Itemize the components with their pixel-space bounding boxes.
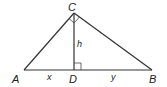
side-ac xyxy=(24,13,74,70)
right-angle-mark-d xyxy=(74,63,81,70)
segment-label-h: h xyxy=(77,39,82,49)
segment-label-x: x xyxy=(46,72,52,82)
triangle-diagram: C A D B x y h xyxy=(0,0,167,87)
segment-label-y: y xyxy=(110,72,116,82)
vertex-label-c: C xyxy=(68,1,76,13)
vertex-label-b: B xyxy=(149,73,156,85)
side-cb xyxy=(74,13,152,70)
vertex-label-a: A xyxy=(11,73,19,85)
vertex-label-d: D xyxy=(69,73,77,85)
